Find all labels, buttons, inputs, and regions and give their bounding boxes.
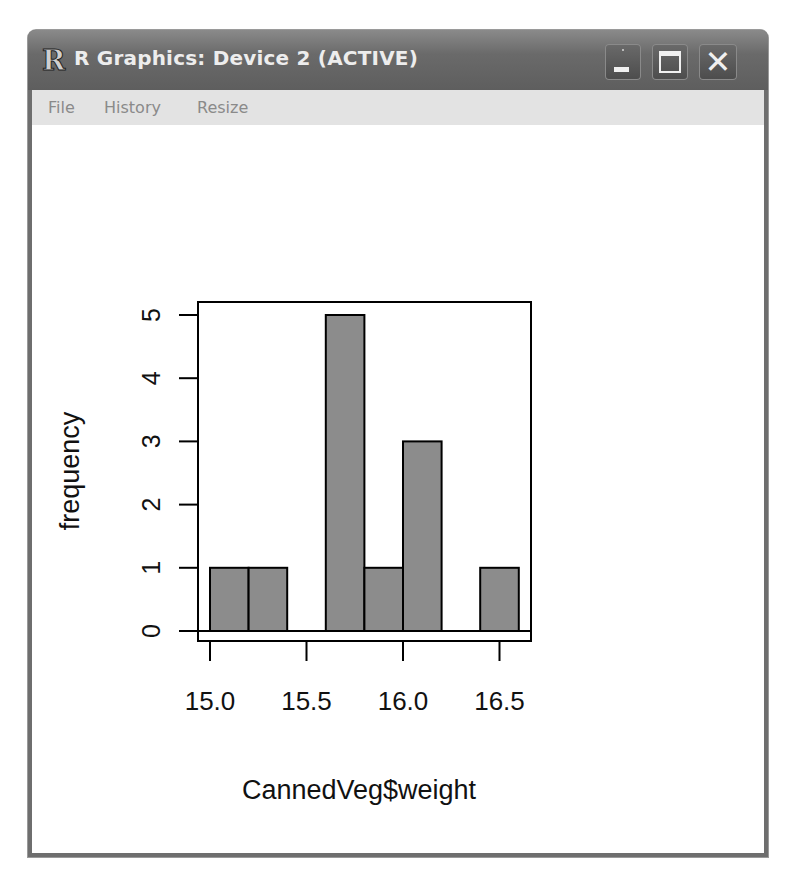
r-logo-icon: R: [42, 46, 70, 76]
menu-file[interactable]: File: [48, 98, 75, 117]
title-bar[interactable]: R R Graphics: Device 2 (ACTIVE) ✕: [28, 30, 768, 90]
menu-bar: File History Resize: [32, 90, 764, 125]
y-tick-label: 0: [137, 624, 165, 638]
minimize-button[interactable]: [605, 44, 641, 80]
y-tick-label: 1: [137, 561, 165, 575]
histogram-bar: [480, 568, 519, 631]
x-axis: 15.015.516.016.5: [185, 641, 525, 716]
histogram-bar: [210, 568, 249, 631]
y-tick-label: 4: [137, 371, 165, 385]
maximize-icon: [659, 51, 681, 73]
histogram-bar: [403, 441, 442, 631]
y-tick-label: 2: [137, 498, 165, 512]
graphics-canvas: 012345 15.015.516.016.5 CannedVeg$weight…: [32, 125, 764, 853]
histogram-bars: [210, 315, 519, 631]
histogram-bar: [249, 568, 288, 631]
x-tick-label: 16.0: [378, 686, 429, 716]
close-icon: ✕: [699, 44, 737, 80]
y-tick-label: 3: [137, 434, 165, 448]
histogram-plot: 012345 15.015.516.016.5 CannedVeg$weight…: [32, 125, 764, 853]
x-axis-label: CannedVeg$weight: [242, 775, 477, 805]
histogram-bar: [326, 315, 365, 631]
menu-history[interactable]: History: [104, 98, 161, 117]
y-tick-label: 5: [137, 308, 165, 322]
histogram-bar: [364, 568, 403, 631]
r-graphics-window: R R Graphics: Device 2 (ACTIVE) ✕ File H…: [28, 30, 768, 857]
x-tick-label: 16.5: [474, 686, 525, 716]
x-tick-label: 15.5: [281, 686, 332, 716]
window-title: R Graphics: Device 2 (ACTIVE): [74, 46, 418, 70]
x-tick-label: 15.0: [185, 686, 236, 716]
maximize-button[interactable]: [652, 44, 688, 80]
close-button[interactable]: ✕: [699, 44, 737, 80]
y-axis: 012345: [137, 308, 198, 638]
window-bottom-border: [28, 853, 768, 857]
minimize-icon: [614, 67, 629, 72]
minimize-dot: [622, 49, 624, 51]
menu-resize[interactable]: Resize: [197, 98, 248, 117]
y-axis-label: frequency: [55, 411, 85, 530]
